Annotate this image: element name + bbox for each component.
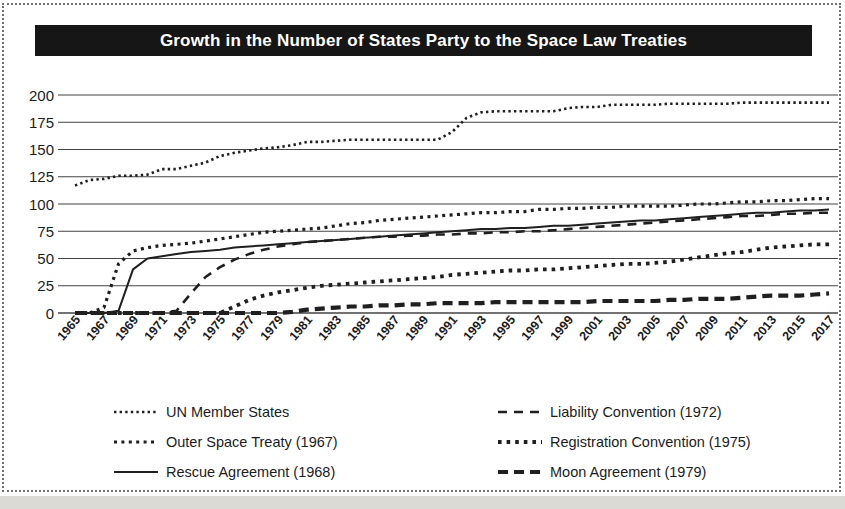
x-tick-label: 1995 bbox=[490, 313, 519, 343]
x-tick-label: 1993 bbox=[461, 313, 490, 343]
x-tick-label: 1991 bbox=[432, 313, 461, 343]
x-tick-label: 1979 bbox=[258, 313, 287, 343]
figure-scan: Growth in the Number of States Party to … bbox=[0, 0, 845, 509]
x-tick-label: 2011 bbox=[722, 313, 750, 343]
x-tick-label: 1997 bbox=[519, 313, 548, 343]
solid-line-marker bbox=[113, 467, 159, 477]
bold-dashed-line-marker bbox=[497, 467, 543, 477]
legend-item-moon-agreement: Moon Agreement (1979) bbox=[497, 464, 837, 480]
dotted-line-marker bbox=[113, 437, 159, 447]
legend-item-liability-convention: Liability Convention (1972) bbox=[497, 404, 837, 420]
legend-label: Moon Agreement (1979) bbox=[550, 464, 706, 480]
x-tick-label: 1969 bbox=[113, 313, 142, 343]
x-tick-label: 1987 bbox=[374, 313, 403, 343]
x-tick-label: 1973 bbox=[171, 313, 200, 343]
chart-title-bar: Growth in the Number of States Party to … bbox=[35, 25, 812, 56]
x-tick-label: 1977 bbox=[229, 313, 258, 343]
x-tick-label: 2001 bbox=[577, 313, 606, 343]
y-tick-label: 200 bbox=[29, 87, 54, 104]
legend-item-registration-convention: Registration Convention (1975) bbox=[497, 434, 837, 450]
x-tick-label: 2007 bbox=[664, 313, 693, 343]
x-tick-label: 1975 bbox=[200, 313, 229, 343]
y-tick-label: 50 bbox=[37, 250, 54, 267]
legend-label: UN Member States bbox=[166, 404, 289, 420]
x-tick-label: 2009 bbox=[693, 313, 722, 343]
dashed-line-marker bbox=[497, 407, 543, 417]
x-tick-label: 1967 bbox=[84, 313, 113, 343]
x-tick-label: 2017 bbox=[809, 313, 838, 343]
series-line-0 bbox=[75, 103, 829, 186]
x-tick-label: 1999 bbox=[548, 313, 577, 343]
x-tick-label: 1985 bbox=[345, 313, 374, 343]
chart-legend: UN Member States Liability Convention (1… bbox=[113, 397, 837, 487]
y-tick-label: 125 bbox=[29, 168, 54, 185]
y-tick-label: 150 bbox=[29, 141, 54, 158]
x-tick-label: 1989 bbox=[403, 313, 432, 343]
y-tick-label: 25 bbox=[37, 277, 54, 294]
y-tick-label: 175 bbox=[29, 114, 54, 131]
x-tick-label: 1983 bbox=[316, 313, 345, 343]
x-tick-label: 2013 bbox=[751, 313, 780, 343]
fine-dotted-line-marker bbox=[113, 407, 159, 417]
x-tick-label: 1971 bbox=[142, 313, 171, 343]
y-tick-label: 75 bbox=[37, 223, 54, 240]
chart-title: Growth in the Number of States Party to … bbox=[160, 31, 687, 51]
legend-item-rescue-agreement: Rescue Agreement (1968) bbox=[113, 464, 497, 480]
legend-label: Liability Convention (1972) bbox=[550, 404, 722, 420]
legend-item-un-member-states: UN Member States bbox=[113, 404, 497, 420]
x-tick-label: 1981 bbox=[287, 313, 316, 343]
legend-label: Outer Space Treaty (1967) bbox=[166, 434, 338, 450]
x-tick-label: 2005 bbox=[635, 313, 664, 343]
legend-label: Rescue Agreement (1968) bbox=[166, 464, 335, 480]
y-tick-label: 100 bbox=[29, 196, 54, 213]
x-tick-label: 2015 bbox=[780, 313, 809, 343]
legend-item-outer-space-treaty: Outer Space Treaty (1967) bbox=[113, 434, 497, 450]
x-tick-label: 1965 bbox=[55, 313, 84, 343]
y-tick-label: 0 bbox=[46, 305, 54, 322]
x-tick-label: 2003 bbox=[606, 313, 635, 343]
legend-label: Registration Convention (1975) bbox=[550, 434, 751, 450]
bold-dotted-line-marker bbox=[497, 437, 543, 447]
